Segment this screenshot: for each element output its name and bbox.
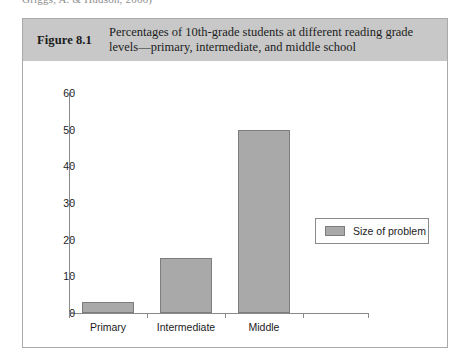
- bar-middle: [238, 130, 290, 313]
- y-axis-tick-30: 30: [31, 197, 75, 209]
- y-axis-tick-label: 50: [49, 124, 75, 136]
- chart-legend: Size of problem: [315, 218, 429, 244]
- y-axis-tick-label: 20: [49, 234, 75, 246]
- y-axis-tick-20: 20: [31, 234, 75, 246]
- y-axis-tick-60: 60: [31, 87, 75, 99]
- x-axis-tick-mark: [303, 313, 304, 318]
- chart-plot-area: 60 50 40 30 20 10 0: [23, 61, 447, 348]
- figure-caption-text: Percentages of 10th-grade students at di…: [109, 25, 447, 55]
- figure-number-label: Figure 8.1: [37, 33, 109, 48]
- legend-swatch-icon: [325, 226, 345, 236]
- y-axis-tick-label: 10: [49, 270, 75, 282]
- x-axis-tick-mark: [225, 313, 226, 318]
- x-axis-label-middle: Middle: [224, 321, 304, 333]
- figure-box: Figure 8.1 Percentages of 10th-grade stu…: [22, 18, 448, 348]
- cut-off-citation-text: Griggs, A. & Hudson, 2006): [22, 0, 222, 5]
- bar-primary: [82, 302, 134, 313]
- x-axis-label-intermediate: Intermediate: [136, 321, 236, 333]
- y-axis-tick-label: 0: [49, 307, 75, 319]
- y-axis-tick-label: 40: [49, 160, 75, 172]
- y-axis-tick-mark: [69, 275, 74, 276]
- y-axis-tick-mark: [69, 92, 74, 93]
- x-axis-tick-mark: [69, 313, 70, 318]
- bar-intermediate: [160, 258, 212, 313]
- x-axis-tick-mark: [147, 313, 148, 318]
- x-axis-line: [69, 313, 369, 314]
- y-axis-tick-50: 50: [31, 124, 75, 136]
- y-axis-tick-label: 60: [49, 87, 75, 99]
- y-axis-tick-10: 10: [31, 270, 75, 282]
- y-axis-tick-mark: [69, 165, 74, 166]
- x-axis-tick-mark: [368, 313, 369, 318]
- y-axis-tick-mark: [69, 202, 74, 203]
- y-axis-tick-40: 40: [31, 160, 75, 172]
- y-axis-tick-mark: [69, 129, 74, 130]
- y-axis-tick-mark: [69, 239, 74, 240]
- legend-entry-label: Size of problem: [353, 225, 426, 237]
- y-axis-tick-label: 30: [49, 197, 75, 209]
- figure-caption-band: Figure 8.1 Percentages of 10th-grade stu…: [23, 19, 447, 61]
